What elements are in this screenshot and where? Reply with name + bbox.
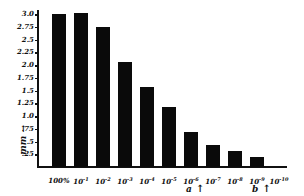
x-tick-label: 10-7 bbox=[205, 176, 220, 186]
bar bbox=[118, 62, 132, 167]
x-tick-label: 10-4 bbox=[139, 176, 154, 186]
y-tick bbox=[35, 129, 39, 131]
y-tick bbox=[35, 65, 39, 67]
y-tick-label: 2.5 bbox=[22, 36, 34, 44]
bar bbox=[74, 13, 88, 167]
x-tick-label: 10-10 bbox=[270, 176, 289, 186]
y-tick bbox=[35, 116, 39, 118]
x-tick-label: 10-8 bbox=[227, 176, 242, 186]
y-tick-label: 1.25 bbox=[17, 99, 34, 107]
x-tick-label: 10-2 bbox=[95, 176, 110, 186]
x-tick-label: 100% bbox=[48, 176, 69, 185]
arrow-up-icon: ↑ bbox=[262, 183, 270, 194]
annotation-marker: a↑ bbox=[186, 183, 204, 194]
y-tick bbox=[35, 142, 39, 144]
y-tick bbox=[35, 14, 39, 16]
x-tick-label: 10-1 bbox=[73, 176, 88, 186]
y-tick-label: 3.0 bbox=[22, 10, 34, 18]
y-tick-label: 2.75 bbox=[17, 23, 34, 31]
y-tick bbox=[35, 27, 39, 29]
x-tick-label: 10-5 bbox=[161, 176, 176, 186]
y-tick bbox=[35, 78, 39, 80]
x-tick-label: 10-3 bbox=[117, 176, 132, 186]
bar bbox=[162, 107, 176, 167]
y-tick bbox=[35, 40, 39, 42]
y-axis-label: mm → bbox=[18, 125, 28, 155]
y-tick bbox=[35, 154, 39, 156]
y-tick-label: 2.25 bbox=[17, 48, 34, 56]
arrow-up-icon: ↑ bbox=[196, 183, 204, 194]
y-tick bbox=[35, 103, 39, 105]
y-tick-label: 1.0 bbox=[22, 112, 34, 120]
y-tick bbox=[35, 91, 39, 93]
bar bbox=[140, 87, 154, 167]
bar bbox=[206, 145, 220, 167]
annotation-marker: b↑ bbox=[252, 183, 271, 194]
bar bbox=[96, 27, 110, 167]
y-tick-label: 1.5 bbox=[22, 87, 34, 95]
bar bbox=[52, 14, 66, 167]
y-tick bbox=[35, 52, 39, 54]
bar bbox=[184, 132, 198, 167]
y-tick-label: 1.75 bbox=[17, 74, 34, 82]
y-axis bbox=[37, 10, 39, 168]
y-tick-label: 2.0 bbox=[22, 61, 34, 69]
bar bbox=[228, 151, 242, 167]
bar bbox=[250, 157, 264, 167]
